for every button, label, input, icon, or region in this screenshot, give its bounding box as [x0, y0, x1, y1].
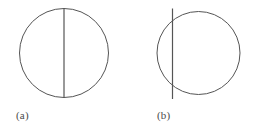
panel-b-graphic — [157, 9, 240, 100]
geometry-figure: (a) (b) — [0, 0, 259, 131]
figure-canvas — [0, 0, 259, 131]
panel-caption-b: (b) — [157, 109, 170, 121]
circle-b — [157, 12, 240, 95]
panel-caption-a: (a) — [16, 109, 29, 121]
panel-a-graphic — [20, 9, 109, 98]
